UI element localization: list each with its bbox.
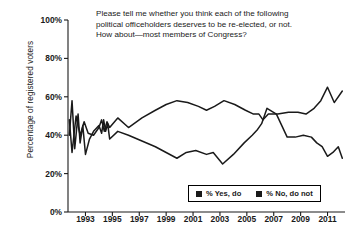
x-tick-label: 2011 bbox=[318, 214, 336, 224]
x-tick-label: 2005 bbox=[238, 214, 257, 224]
x-tick-label: 2001 bbox=[184, 214, 203, 224]
chart-container: Percentage of registered voters Please t… bbox=[0, 0, 349, 241]
legend-swatch-no-icon bbox=[256, 191, 262, 197]
x-tick-label: 2009 bbox=[291, 214, 310, 224]
x-tick-label: 1997 bbox=[130, 214, 149, 224]
legend-item-no: % No, do not bbox=[256, 189, 312, 198]
x-tick-label: 2007 bbox=[264, 214, 283, 224]
legend-label-yes: % Yes, do bbox=[206, 189, 241, 198]
x-tick-label: 1999 bbox=[157, 214, 176, 224]
x-axis-tick-labels: 1993199519971999200120032005200720092011 bbox=[0, 0, 349, 241]
legend-item-yes: % Yes, do bbox=[196, 189, 241, 198]
x-tick-label: 2003 bbox=[211, 214, 230, 224]
legend-label-no: % No, do not bbox=[266, 189, 312, 198]
x-tick-label: 1995 bbox=[103, 214, 122, 224]
legend-swatch-yes-icon bbox=[196, 191, 202, 197]
chart-legend: % Yes, do % No, do not bbox=[188, 185, 321, 202]
x-tick-label: 1993 bbox=[76, 214, 95, 224]
